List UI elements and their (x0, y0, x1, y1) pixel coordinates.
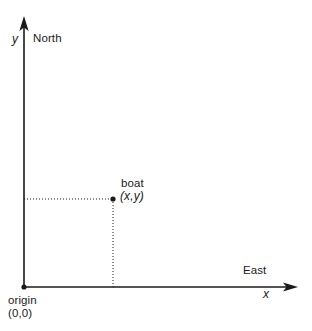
boat-coordinates-label: (x,y) (120, 190, 144, 203)
coordinate-diagram: y North boat (x,y) East x origin (0,0) (0, 0, 312, 331)
north-direction-label: North (33, 32, 62, 45)
y-axis-symbol-label: y (12, 33, 18, 46)
axes-and-guides-svg (0, 0, 312, 331)
origin-coordinates-label: (0,0) (8, 307, 32, 320)
origin-point-marker (21, 284, 26, 289)
origin-label: origin (8, 294, 37, 307)
boat-point-marker (110, 196, 115, 201)
east-direction-label: East (243, 264, 266, 277)
x-axis-symbol-label: x (263, 288, 269, 301)
